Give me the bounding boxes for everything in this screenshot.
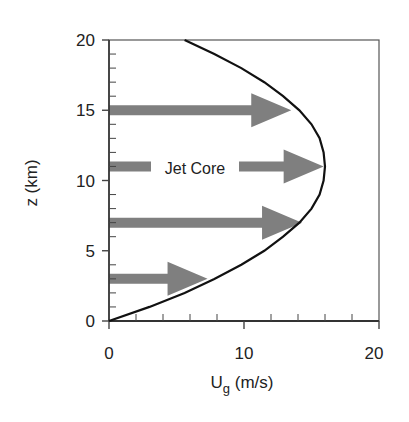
x-tick-0: 0 — [104, 344, 113, 363]
y-tick-10: 10 — [76, 172, 95, 191]
x-axis-label: Ug (m/s) — [211, 373, 274, 396]
y-axis-label: z (km) — [22, 159, 41, 206]
x-tick-10: 10 — [235, 344, 254, 363]
axis-ticks — [102, 40, 379, 329]
jet-core-label: Jet Core — [165, 160, 226, 177]
x-tick-20: 20 — [365, 344, 384, 363]
y-tick-5: 5 — [86, 242, 95, 261]
y-tick-0: 0 — [86, 312, 95, 331]
wind-arrow-15km — [109, 93, 291, 127]
wind-profile-chart: 0 10 20 0 5 10 15 20 z (km) Ug (m/s) Jet… — [0, 0, 409, 422]
wind-arrows — [109, 93, 324, 296]
y-tick-15: 15 — [76, 101, 95, 120]
wind-arrow-7km — [109, 206, 302, 240]
wind-arrow-3km — [109, 262, 208, 296]
y-tick-20: 20 — [76, 31, 95, 50]
